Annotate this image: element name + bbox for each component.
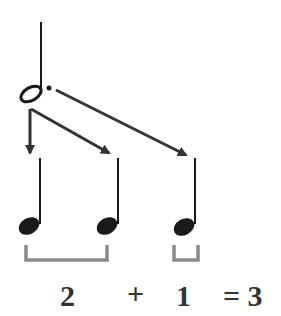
quarter-note-icon [15,158,42,238]
equation-plus: + [127,277,144,310]
arrows [30,90,186,155]
quarter-note-icon [170,158,197,239]
arrow-to-note-3 [56,90,186,155]
bracket-group-2 [174,245,198,260]
equation-term-2: 1 [176,279,191,312]
equation-result: = 3 [223,279,263,312]
quarter-note-icon [93,158,120,238]
bracket-group-1 [26,245,107,260]
arrow-to-note-2 [31,109,109,153]
rhythm-diagram: 2 + 1 = 3 [0,0,281,316]
equation-term-1: 2 [60,279,75,312]
dotted-half-note-icon [18,22,51,105]
